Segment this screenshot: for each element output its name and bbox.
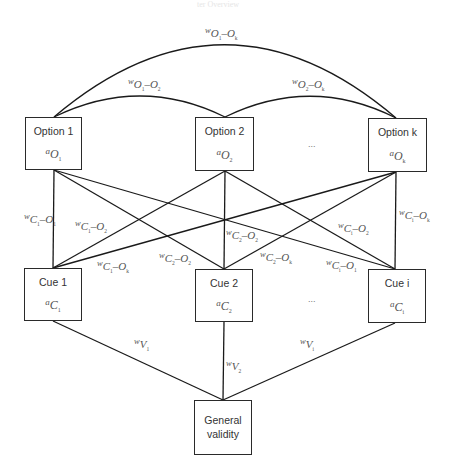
weight-label-vi: wVi	[300, 335, 314, 346]
node-option-1: Option 1 aO1	[25, 117, 82, 170]
edge-o2-ok	[225, 96, 396, 118]
edge-c1-v	[53, 321, 223, 400]
node-title-line1: General	[204, 414, 241, 427]
weight-label-c1-o1: wC1–O1	[24, 210, 56, 221]
edge-o1-o2	[54, 96, 225, 117]
activation-label: aC2	[216, 295, 232, 310]
node-cue-i: Cue i aCi	[368, 269, 426, 323]
edge-ok-ci	[395, 172, 396, 269]
weight-label-v1: wV1	[134, 335, 149, 346]
weight-label-ci-ok: wCi–Ok	[399, 206, 430, 217]
node-cue-2: Cue 2 aC2	[195, 269, 253, 322]
node-title: Option 2	[205, 125, 245, 138]
activation-label: aOk	[389, 145, 405, 160]
node-option-2: Option 2 aO2	[195, 117, 254, 171]
weight-label-c1-ok: wC1–Ok	[97, 257, 129, 268]
options-ellipsis: ...	[308, 139, 316, 149]
node-title: Option k	[378, 126, 417, 139]
activation-label: aO2	[216, 144, 232, 159]
activation-label: aO1	[45, 143, 61, 158]
node-option-k: Option k aOk	[368, 118, 427, 172]
weight-label-c2-o2-mid: wC2–O2	[226, 226, 258, 237]
weight-label-c2-ok: wC2–Ok	[260, 248, 292, 259]
node-title: Cue 2	[210, 277, 238, 290]
weight-label-v2: wV2	[226, 357, 241, 368]
weight-label-ci-o2: wCi–O2	[338, 219, 369, 230]
edge-o1-ok	[54, 45, 396, 118]
node-title-line2: validity	[207, 428, 239, 441]
node-general-validity: General validity	[194, 400, 252, 455]
weight-label-o1-ok: wO1–Ok	[205, 24, 238, 35]
weight-label-c1-o2: wC1–O2	[75, 217, 107, 228]
node-title: Cue 1	[39, 276, 67, 289]
cues-ellipsis: ...	[308, 294, 316, 304]
edge-c2-v	[223, 322, 224, 400]
weight-label-o2-ok: wO2–Ok	[292, 75, 325, 86]
node-cue-1: Cue 1 aC1	[24, 268, 82, 321]
activation-label: aCi	[390, 296, 404, 311]
weight-label-o1-o2: wO1–O2	[128, 75, 161, 86]
node-title: Option 1	[34, 125, 74, 138]
network-diagram: ter Overview Option 1 aO1 Option 2 aO2 O…	[0, 0, 450, 474]
activation-label: aC1	[45, 294, 61, 309]
weight-label-c2-o2-left: wC2–O2	[159, 249, 191, 260]
node-title: Cue i	[385, 277, 410, 290]
weight-label-ci-o1: wCi–O1	[326, 256, 357, 267]
